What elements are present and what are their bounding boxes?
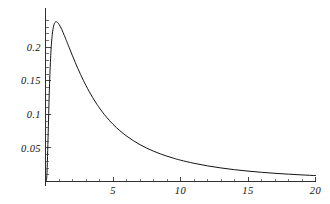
y-axis-tick-label: 0.05 [21,143,41,154]
density-plot-svg: 5101520 0.050.10.150.2 [0,0,330,204]
y-axis-tick-label: 0.1 [27,109,41,120]
x-axis-tick-label: 15 [242,185,253,196]
chart-container: 5101520 0.050.10.150.2 [0,0,330,204]
y-axis-tick-label: 0.15 [21,75,41,86]
x-axis-tick-label: 20 [310,185,322,196]
x-axis-tick-label: 5 [110,185,116,196]
x-axis-tick-label: 10 [175,185,187,196]
y-axis-tick-label: 0.2 [27,42,42,53]
